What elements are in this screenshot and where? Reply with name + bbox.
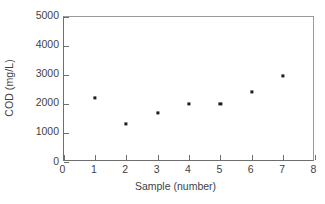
x-axis-tick — [158, 155, 159, 160]
x-axis-tick — [126, 155, 127, 160]
x-axis-tick — [252, 155, 253, 160]
x-axis-title-text: Sample (number) — [109, 180, 216, 192]
x-axis-tick-labels: 012345678 — [0, 164, 325, 178]
y-axis-tick — [64, 46, 69, 47]
data-point — [250, 91, 253, 94]
x-axis-tick-label: 6 — [248, 164, 254, 175]
page-caption-fragment — [8, 197, 317, 203]
x-axis-tick-label: 8 — [311, 164, 317, 175]
y-axis-tick-label: 1000 — [21, 126, 59, 137]
x-axis-tick-label: 0 — [60, 164, 66, 175]
y-axis-title: COD (mg/L) — [0, 0, 18, 176]
x-axis-tick — [283, 155, 284, 160]
x-axis-tick-label: 7 — [279, 164, 285, 175]
data-point — [282, 75, 285, 78]
y-axis-tick — [64, 75, 69, 76]
y-axis-title-text: COD (mg/L) — [3, 59, 15, 117]
y-axis-tick-label: 5000 — [21, 10, 59, 21]
plot-area — [63, 16, 314, 162]
data-point — [187, 102, 190, 105]
y-axis-tick — [64, 17, 69, 18]
data-point — [93, 96, 96, 99]
x-axis-tick-label: 1 — [91, 164, 97, 175]
data-point — [156, 111, 159, 114]
x-axis-tick — [315, 155, 316, 160]
data-point — [125, 123, 128, 126]
x-axis-tick — [64, 155, 65, 160]
x-axis-tick — [95, 155, 96, 160]
x-axis-tick — [220, 155, 221, 160]
x-axis-tick-label: 2 — [122, 164, 128, 175]
data-point — [219, 102, 222, 105]
y-axis-tick-label: 2000 — [21, 97, 59, 108]
y-axis-tick-label: 3000 — [21, 68, 59, 79]
y-axis-tick — [64, 133, 69, 134]
x-axis-title: Sample (number) — [0, 180, 325, 192]
scatter-chart-figure: COD (mg/L) 010002000300040005000 0123456… — [0, 0, 325, 204]
x-axis-tick — [189, 155, 190, 160]
y-axis-tick — [64, 104, 69, 105]
x-axis-tick-label: 4 — [185, 164, 191, 175]
x-axis-tick-label: 3 — [154, 164, 160, 175]
y-axis-tick-label: 4000 — [21, 39, 59, 50]
x-axis-tick-label: 5 — [216, 164, 222, 175]
